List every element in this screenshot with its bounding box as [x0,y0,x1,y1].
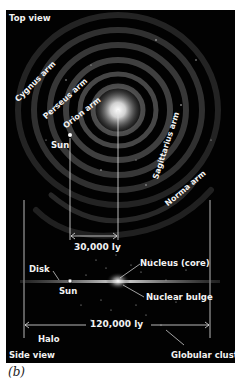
figure-caption: (b) [8,365,25,379]
diameter-label: 120,000 ly [90,320,143,329]
sun-top-label: Sun [51,141,69,150]
sun-top-marker [68,133,72,137]
nucleus-label: Nucleus (core) [140,259,210,268]
sun-side-label: Sun [59,287,77,296]
disk-label: Disk [29,265,50,274]
globular-cluster-label: Globular cluster [171,351,235,360]
side-view-title: Side view [9,351,55,360]
galaxy-illustration [6,10,235,363]
top-view-title: Top view [9,14,51,23]
distance-label: 30,000 ly [74,243,121,252]
halo-label: Halo [38,335,60,344]
sun-side-marker [68,279,72,283]
nuclear-bulge-label: Nuclear bulge [146,293,213,302]
milky-way-diagram: Top view Cygnus arm Perseus arm Orion ar… [6,10,235,363]
